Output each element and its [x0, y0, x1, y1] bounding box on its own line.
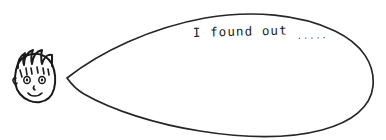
boy-face — [13, 50, 55, 102]
right-eye-pupil-icon — [41, 79, 43, 82]
cartoon-illustration: I found out ..... — [0, 0, 386, 140]
illustration-svg: I found out ..... — [0, 0, 386, 140]
left-eye-pupil-icon — [26, 79, 28, 82]
speech-balloon-text: I found out — [193, 23, 288, 40]
mouth-icon — [28, 93, 42, 96]
face-outline — [15, 54, 55, 102]
hair-fringe-icon — [20, 67, 49, 77]
speech-balloon-trailing-dots: ..... — [297, 31, 328, 41]
nose-icon — [33, 86, 35, 90]
